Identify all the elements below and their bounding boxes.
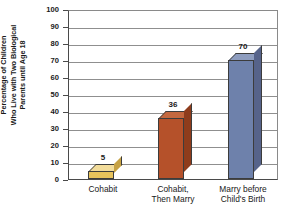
y-tick-mark <box>63 180 68 181</box>
bar-front-face <box>88 171 114 180</box>
y-tick-label: 30 <box>18 125 59 133</box>
y-tick-label: 40 <box>18 108 59 116</box>
y-tick-label: 70 <box>18 57 59 65</box>
x-axis-label-line: Child's Birth <box>203 194 283 204</box>
y-tick-label: 90 <box>18 23 59 31</box>
y-tick-label: 20 <box>18 142 59 150</box>
bar-front-face <box>158 118 184 179</box>
y-tick-label: 50 <box>18 91 59 99</box>
bar-value-label: 70 <box>223 43 263 51</box>
bar <box>88 171 114 180</box>
y-tick-label: 0 <box>18 176 59 184</box>
bar-value-label: 36 <box>153 101 193 109</box>
y-tick-label: 10 <box>18 159 59 167</box>
bar-side-face <box>254 45 262 172</box>
y-axis-title-line-2: Who Live with Two Biological <box>9 0 19 150</box>
x-axis-label-line: Cohabit <box>63 184 143 194</box>
x-axis-label-line: Cohabit, <box>133 184 213 194</box>
x-axis-label-line: Then Marry <box>133 194 213 204</box>
x-axis-label: Marry beforeChild's Birth <box>203 184 283 204</box>
bar <box>228 60 254 179</box>
bar <box>158 118 184 179</box>
gridline <box>69 28 277 29</box>
bar-chart: Percentage of Children Who Live with Two… <box>0 0 291 218</box>
y-axis-title-line-1: Percentage of Children <box>0 0 9 150</box>
y-tick-label: 100 <box>18 6 59 14</box>
bar-front-face <box>228 60 254 179</box>
bar-side-face <box>184 103 192 172</box>
x-axis-label-line: Marry before <box>203 184 283 194</box>
x-axis-label: Cohabit <box>63 184 143 194</box>
y-tick-label: 60 <box>18 74 59 82</box>
y-tick-label: 80 <box>18 40 59 48</box>
x-axis-label: Cohabit,Then Marry <box>133 184 213 204</box>
bar-value-label: 5 <box>83 154 123 162</box>
